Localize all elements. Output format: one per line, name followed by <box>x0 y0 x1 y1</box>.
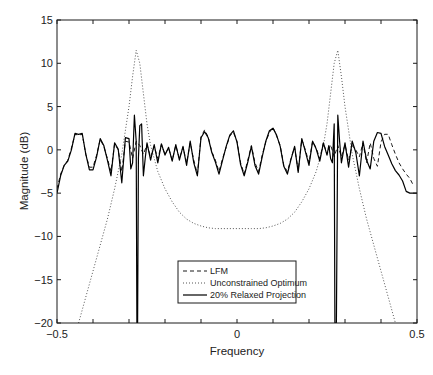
y-tick-label: −5 <box>40 187 53 199</box>
x-axis-label: Frequency <box>210 345 265 357</box>
y-axis-label: Magnitude (dB) <box>18 132 30 211</box>
legend-label-relaxed-projection: 20% Relaxed Projection <box>210 290 306 300</box>
y-tick-label: −15 <box>34 274 53 286</box>
x-tick-label: −0.5 <box>46 328 68 340</box>
y-tick-label: 15 <box>41 14 53 26</box>
y-tick-label: 0 <box>47 144 53 156</box>
legend-label-unconstrained-optimum: Unconstrained Optimum <box>210 278 307 288</box>
magnitude-response-chart: 151050−5−10−15−20−0.500.5 Frequency Magn… <box>0 0 433 375</box>
legend-label-lfm: LFM <box>210 266 228 276</box>
y-tick-label: 5 <box>47 101 53 113</box>
x-tick-label: 0 <box>234 328 240 340</box>
y-tick-label: −10 <box>34 230 53 242</box>
x-tick-label: 0.5 <box>409 328 424 340</box>
y-tick-label: 10 <box>41 57 53 69</box>
legend: LFM Unconstrained Optimum 20% Relaxed Pr… <box>178 261 307 303</box>
